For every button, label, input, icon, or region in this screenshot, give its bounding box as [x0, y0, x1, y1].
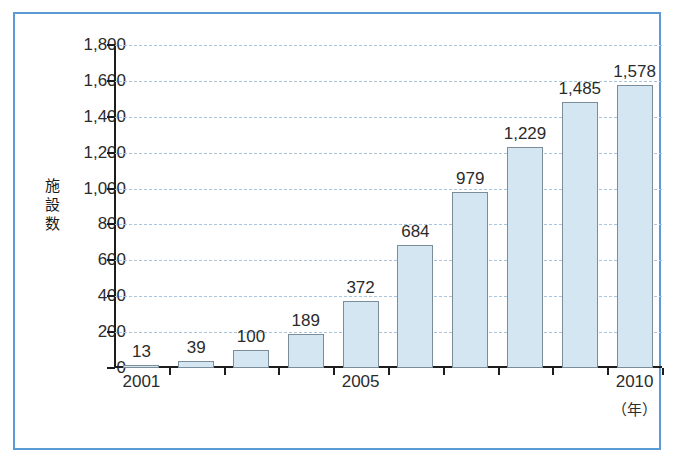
x-tick-mark — [169, 368, 171, 375]
bar[interactable] — [397, 245, 433, 368]
bar-value-label: 39 — [187, 338, 206, 358]
bar[interactable] — [288, 334, 324, 368]
bar[interactable] — [562, 102, 598, 368]
bar[interactable] — [178, 361, 214, 368]
x-tick-mark — [662, 368, 664, 375]
y-tick-mark — [107, 259, 115, 261]
bar[interactable] — [233, 350, 269, 368]
y-axis-title: 施設数 — [41, 176, 63, 233]
y-axis-line — [114, 45, 116, 368]
x-tick-mark — [552, 368, 554, 375]
bar-value-label: 979 — [456, 169, 484, 189]
y-tick-mark — [107, 331, 115, 333]
x-tick-label: 2010 — [616, 372, 654, 392]
bar-value-label: 1,229 — [504, 124, 547, 144]
bar[interactable] — [617, 85, 653, 368]
gridline — [114, 45, 662, 46]
y-tick-mark — [107, 116, 115, 118]
bar-value-label: 13 — [132, 342, 151, 362]
y-tick-mark — [107, 367, 115, 369]
bar-value-label: 189 — [292, 311, 320, 331]
y-tick-mark — [107, 188, 115, 190]
y-tick-mark — [107, 295, 115, 297]
x-tick-mark — [278, 368, 280, 375]
bar[interactable] — [123, 365, 159, 368]
x-tick-mark — [388, 368, 390, 375]
chart-container: 施設数 02004006008001,0001,2001,4001,6001,8… — [0, 0, 699, 464]
bar-value-label: 100 — [237, 327, 265, 347]
x-tick-mark — [498, 368, 500, 375]
x-axis-title: （年） — [612, 398, 657, 419]
bar-value-label: 1,578 — [613, 62, 656, 82]
x-tick-mark — [443, 368, 445, 375]
bar-value-label: 684 — [401, 222, 429, 242]
bar[interactable] — [452, 192, 488, 368]
y-tick-mark — [107, 152, 115, 154]
y-tick-mark — [107, 80, 115, 82]
y-tick-mark — [107, 223, 115, 225]
x-tick-mark — [224, 368, 226, 375]
y-tick-mark — [107, 44, 115, 46]
bar-value-label: 1,485 — [559, 79, 602, 99]
x-tick-label: 2005 — [342, 372, 380, 392]
x-tick-mark — [333, 368, 335, 375]
x-tick-mark — [607, 368, 609, 375]
bar[interactable] — [507, 147, 543, 368]
bar-value-label: 372 — [346, 278, 374, 298]
x-tick-label: 2001 — [122, 372, 160, 392]
bar[interactable] — [343, 301, 379, 368]
